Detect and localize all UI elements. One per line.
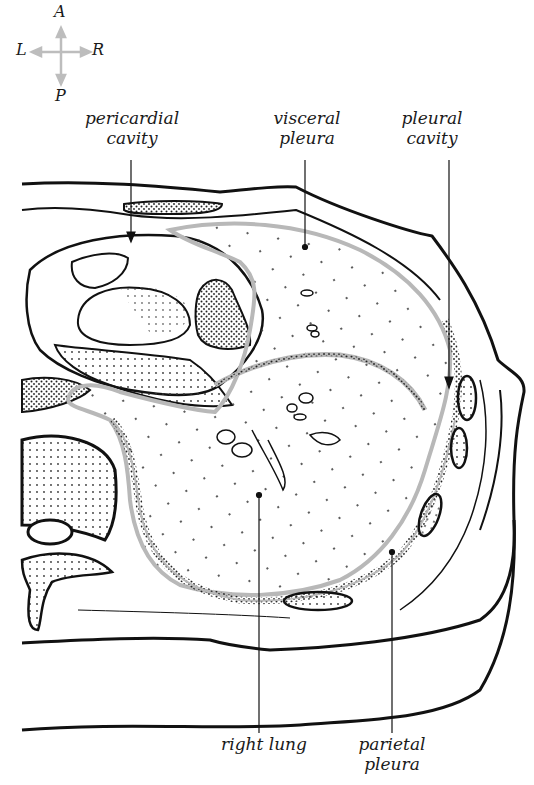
compass-arrows-icon bbox=[32, 28, 90, 84]
thorax-section-diagram bbox=[0, 0, 534, 785]
sternum-piece bbox=[124, 201, 222, 214]
vertebra bbox=[22, 436, 116, 630]
